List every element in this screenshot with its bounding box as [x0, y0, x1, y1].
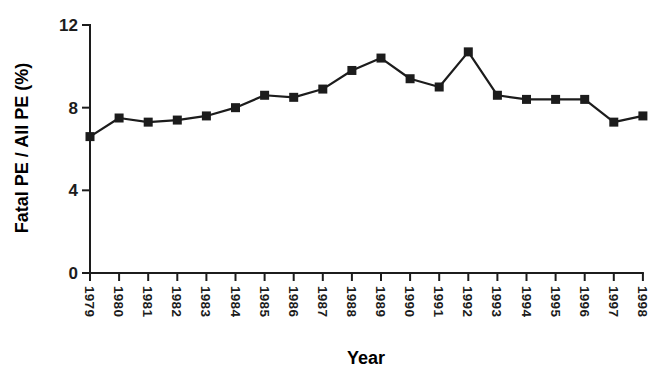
y-tick-label-8: 8 — [69, 99, 78, 118]
x-tick-label-1981: 1981 — [140, 286, 155, 317]
data-point-1979 — [86, 132, 95, 141]
data-point-1983 — [202, 111, 211, 120]
y-tick-label-12: 12 — [59, 16, 78, 35]
data-point-1998 — [638, 111, 647, 120]
line-chart: 0481219791980198119821983198419851986198… — [0, 0, 670, 382]
data-point-1997 — [609, 118, 618, 127]
x-tick-label-1985: 1985 — [257, 286, 272, 317]
x-tick-label-1998: 1998 — [635, 286, 650, 317]
x-tick-label-1997: 1997 — [606, 286, 621, 317]
data-point-1993 — [493, 91, 502, 100]
x-tick-label-1996: 1996 — [577, 286, 592, 317]
x-tick-label-1986: 1986 — [286, 286, 301, 317]
x-axis-title: Year — [347, 348, 385, 368]
x-tick-label-1987: 1987 — [315, 286, 330, 317]
data-point-1987 — [318, 85, 327, 94]
data-point-1981 — [144, 118, 153, 127]
chart-figure: 0481219791980198119821983198419851986198… — [0, 0, 670, 382]
x-tick-label-1983: 1983 — [198, 286, 213, 317]
data-point-1986 — [289, 93, 298, 102]
data-point-1982 — [173, 116, 182, 125]
x-tick-label-1984: 1984 — [228, 286, 243, 317]
x-tick-label-1980: 1980 — [111, 286, 126, 317]
y-axis-title: Fatal PE / All PE (%) — [12, 63, 32, 233]
data-point-1988 — [347, 66, 356, 75]
x-tick-label-1988: 1988 — [344, 286, 359, 317]
data-point-1985 — [260, 91, 269, 100]
x-tick-label-1989: 1989 — [373, 286, 388, 317]
x-tick-label-1979: 1979 — [82, 286, 97, 317]
x-tick-label-1982: 1982 — [169, 286, 184, 317]
axes — [82, 24, 644, 281]
x-tick-label-1993: 1993 — [489, 286, 504, 317]
x-tick-label-1991: 1991 — [431, 286, 446, 317]
data-point-1991 — [435, 83, 444, 92]
data-point-1984 — [231, 103, 240, 112]
data-point-1990 — [406, 74, 415, 83]
x-tick-label-1995: 1995 — [548, 286, 563, 317]
x-tick-label-1994: 1994 — [519, 286, 534, 317]
y-tick-label-4: 4 — [69, 181, 79, 200]
data-point-1996 — [580, 95, 589, 104]
data-point-1980 — [115, 114, 124, 123]
x-tick-label-1990: 1990 — [402, 286, 417, 317]
y-tick-label-0: 0 — [69, 264, 78, 283]
data-series — [86, 47, 648, 141]
x-tick-label-1992: 1992 — [460, 286, 475, 317]
data-point-1989 — [377, 54, 386, 63]
data-point-1992 — [464, 47, 473, 56]
data-point-1994 — [522, 95, 531, 104]
data-point-1995 — [551, 95, 560, 104]
